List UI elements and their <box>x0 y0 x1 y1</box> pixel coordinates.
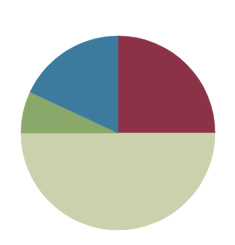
pie-slice[interactable] <box>21 133 215 230</box>
pie-chart-svg <box>0 0 235 245</box>
pie-slice-group <box>21 36 215 230</box>
pie-chart-figure <box>0 0 235 245</box>
pie-slice[interactable] <box>118 36 215 133</box>
